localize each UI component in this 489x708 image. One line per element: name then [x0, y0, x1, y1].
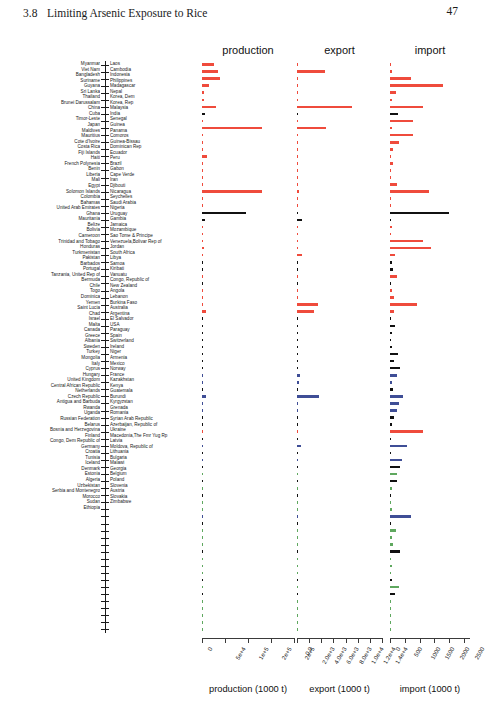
- category-tick: [101, 403, 109, 404]
- x-axis-tick: [225, 638, 226, 643]
- x-tick-label: 2500: [474, 646, 486, 661]
- category-tick: [101, 566, 109, 567]
- bar: [202, 452, 203, 455]
- bar: [202, 466, 203, 469]
- bar: [390, 113, 398, 116]
- category-tick: [101, 269, 109, 270]
- x-axis-tick: [434, 638, 435, 643]
- bar: [202, 579, 203, 582]
- plot-panel-export: [297, 61, 382, 633]
- bar: [297, 332, 298, 335]
- category-tick: [101, 185, 109, 186]
- bar: [202, 275, 203, 278]
- bar: [297, 353, 298, 356]
- page-title: Limiting Arsenic Exposure to Rice: [47, 7, 207, 19]
- bar: [202, 226, 203, 229]
- bar: [202, 240, 203, 243]
- bar: [202, 190, 262, 193]
- bar: [390, 254, 395, 257]
- bar: [390, 360, 394, 363]
- bar: [202, 247, 204, 250]
- bar: [390, 579, 392, 582]
- category-tick: [101, 276, 109, 277]
- bar: [297, 325, 298, 328]
- category-tick: [101, 107, 109, 108]
- bar: [390, 275, 397, 278]
- bar: [202, 501, 203, 504]
- bar: [202, 169, 203, 172]
- bar: [390, 423, 392, 426]
- category-tick: [101, 538, 109, 539]
- bar: [390, 219, 391, 222]
- x-tick-label: 1000: [429, 646, 441, 661]
- x-tick-labels-import: 05001000150020002500: [390, 644, 470, 678]
- bar: [202, 346, 203, 349]
- bar: [297, 501, 298, 504]
- category-tick: [101, 545, 109, 546]
- bar: [390, 240, 423, 243]
- bar: [297, 579, 298, 582]
- bar: [202, 430, 203, 433]
- bar: [390, 183, 397, 186]
- category-tick: [101, 312, 109, 313]
- category-tick: [101, 396, 109, 397]
- panel-title-production: production: [202, 44, 294, 56]
- bar: [202, 233, 203, 236]
- category-tick: [101, 411, 109, 412]
- bar: [390, 99, 392, 102]
- bar: [202, 543, 203, 546]
- bar: [390, 212, 449, 215]
- bar: [390, 106, 423, 109]
- category-tick: [101, 135, 109, 136]
- bar: [202, 99, 204, 102]
- bar: [202, 325, 203, 328]
- x-tick-labels-production: 05e+41e+52e+52e+5: [202, 644, 294, 678]
- bar: [297, 550, 298, 553]
- bar: [297, 515, 298, 518]
- bar: [202, 445, 203, 448]
- bar: [390, 430, 423, 433]
- bar: [297, 522, 298, 525]
- bar: [297, 233, 298, 236]
- bar: [202, 91, 204, 94]
- category-tick: [101, 439, 109, 440]
- bar: [297, 183, 298, 186]
- x-axis-tick: [271, 638, 272, 643]
- bar: [297, 247, 298, 250]
- bar: [390, 395, 403, 398]
- bar: [297, 141, 298, 144]
- x-tick-label: 0: [395, 646, 402, 652]
- bar: [390, 466, 400, 469]
- x-axis-tick: [449, 638, 450, 643]
- bar: [297, 600, 298, 603]
- bar: [390, 487, 392, 490]
- bar: [202, 621, 203, 624]
- bar: [297, 367, 298, 370]
- bar: [297, 374, 300, 377]
- bar: [390, 162, 393, 165]
- bar: [202, 84, 209, 87]
- bar: [390, 77, 411, 80]
- bar: [390, 91, 396, 94]
- category-tick: [101, 170, 109, 171]
- category-tick: [101, 149, 109, 150]
- bar: [202, 367, 203, 370]
- bar: [297, 120, 298, 123]
- bar: [202, 558, 203, 561]
- bar: [390, 480, 397, 483]
- bar: [297, 536, 298, 539]
- bar: [390, 197, 391, 200]
- bar: [297, 480, 298, 483]
- category-tick: [101, 481, 109, 482]
- bar: [202, 388, 203, 391]
- bar: [390, 388, 393, 391]
- bar: [297, 134, 298, 137]
- x-axis-tick: [346, 638, 347, 643]
- bar: [390, 614, 391, 617]
- category-tick: [101, 93, 109, 94]
- x-axis-tick: [309, 638, 310, 643]
- bar: [202, 494, 203, 497]
- bar: [202, 197, 203, 200]
- bar: [390, 261, 392, 264]
- x-axis-tick: [390, 638, 391, 643]
